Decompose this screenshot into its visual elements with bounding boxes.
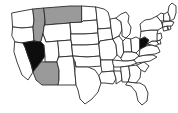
state-AR[interactable]	[101, 60, 114, 72]
state-TX[interactable]	[75, 62, 101, 104]
us-map-svg	[0, 0, 178, 113]
state-WY[interactable]	[43, 23, 71, 42]
state-MN[interactable]	[96, 7, 111, 29]
state-OK[interactable]	[73, 56, 101, 67]
state-WA[interactable]	[12, 9, 34, 28]
state-NM[interactable]	[57, 56, 76, 85]
state-ND[interactable]	[82, 6, 97, 22]
state-NE[interactable]	[71, 33, 99, 45]
state-OH[interactable]	[131, 37, 140, 53]
state-OR[interactable]	[12, 27, 34, 43]
state-FL[interactable]	[126, 82, 148, 105]
state-LA[interactable]	[99, 71, 116, 84]
state-NJ[interactable]	[157, 33, 162, 41]
state-CO[interactable]	[58, 40, 73, 57]
state-MA[interactable]	[163, 21, 174, 27]
state-KS[interactable]	[72, 44, 100, 57]
us-choropleth-map	[0, 0, 178, 113]
